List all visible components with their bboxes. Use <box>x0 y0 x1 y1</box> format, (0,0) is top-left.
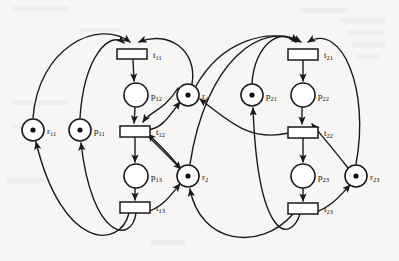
petri-arc <box>196 36 299 86</box>
place-p13: p13 <box>124 164 162 188</box>
petri-arc <box>190 189 293 237</box>
transition-label: t22 <box>324 128 333 139</box>
token-dot <box>185 92 190 97</box>
place-circle <box>291 164 315 188</box>
place-label: r2 <box>202 172 208 183</box>
place-label: r4 <box>202 91 209 102</box>
place-label: p12 <box>151 91 162 102</box>
place-p21: p21 <box>241 84 277 106</box>
petri-net-figure: t11t12t13t21t22t23 r11p11p12p13r4r2p21p2… <box>0 0 399 261</box>
transition-bar <box>288 127 318 138</box>
token-dot <box>185 173 190 178</box>
token-dot <box>249 92 254 97</box>
petri-arc <box>139 38 193 84</box>
place-label: p23 <box>318 172 329 183</box>
transition-t11: t11 <box>117 49 162 61</box>
petri-arc <box>148 102 180 130</box>
transition-t22: t22 <box>288 127 333 139</box>
transition-t13: t13 <box>120 202 165 214</box>
place-circle <box>124 83 148 107</box>
petri-arc <box>133 60 134 81</box>
place-label: r11 <box>47 126 56 137</box>
transition-label: t12 <box>156 127 165 138</box>
transition-t12: t12 <box>120 126 165 138</box>
petri-arc <box>134 108 135 123</box>
petri-arc <box>200 99 289 135</box>
place-p23: p23 <box>291 164 329 188</box>
transition-bar <box>288 203 318 214</box>
place-r11: r11 <box>22 119 56 141</box>
place-p22: p22 <box>291 83 329 107</box>
transition-label: t11 <box>153 50 162 61</box>
petri-net-canvas: t11t12t13t21t22t23 r11p11p12p13r4r2p21p2… <box>0 0 399 261</box>
place-r2: r2 <box>177 165 208 187</box>
place-r23: r23 <box>345 165 380 187</box>
transition-t21: t21 <box>288 49 333 61</box>
place-label: r23 <box>370 172 380 183</box>
transition-bar <box>117 49 147 59</box>
transition-bar <box>120 126 150 137</box>
place-label: p13 <box>151 172 162 183</box>
place-label: p21 <box>266 91 277 102</box>
place-circle <box>291 83 315 107</box>
transition-bar <box>288 49 318 60</box>
place-label: p22 <box>318 91 329 102</box>
place-p12: p12 <box>124 83 162 107</box>
place-p11: p11 <box>69 119 105 141</box>
token-dot <box>30 127 35 132</box>
token-dot <box>353 173 358 178</box>
transition-bar <box>120 202 150 213</box>
petri-arc <box>148 136 181 169</box>
transition-t23: t23 <box>288 203 333 215</box>
transition-label: t21 <box>324 50 333 61</box>
transitions-layer: t11t12t13t21t22t23 <box>117 49 333 215</box>
token-dot <box>77 127 82 132</box>
place-label: p11 <box>94 126 105 137</box>
place-circle <box>124 164 148 188</box>
